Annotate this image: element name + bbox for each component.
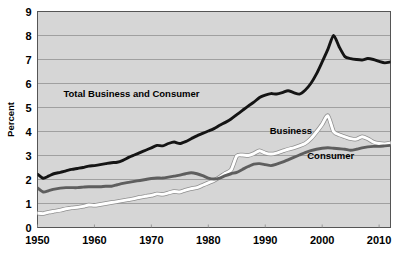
series-annotation-consumer: Consumer <box>307 150 354 161</box>
y-axis-title: Percent <box>5 101 16 137</box>
y-tick-label-2: 2 <box>25 174 31 186</box>
y-tick-label-6: 6 <box>25 78 31 90</box>
x-axis-tick-labels: 1950196019701980199020002010 <box>25 234 391 246</box>
y-axis-title-text: Percent <box>5 101 16 137</box>
y-tick-label-1: 1 <box>25 198 31 210</box>
y-tick-label-8: 8 <box>25 30 31 42</box>
x-tick-label-1990: 1990 <box>253 234 277 246</box>
x-tick-label-2000: 2000 <box>310 234 334 246</box>
series-annotation-business: Business <box>270 125 312 136</box>
y-axis-tick-labels: 0123456789 <box>25 6 32 234</box>
series-annotation-total-business-and-consumer: Total Business and Consumer <box>63 88 199 99</box>
y-tick-label-4: 4 <box>25 126 32 138</box>
y-tick-label-3: 3 <box>25 150 31 162</box>
y-tick-label-0: 0 <box>25 222 31 234</box>
x-tick-label-1960: 1960 <box>82 234 106 246</box>
y-tick-label-5: 5 <box>25 102 31 114</box>
y-tick-label-9: 9 <box>25 6 31 18</box>
y-tick-label-7: 7 <box>25 54 31 66</box>
x-tick-label-1950: 1950 <box>25 234 49 246</box>
line-chart-svg: 0123456789 1950196019701980199020002010 … <box>0 0 412 256</box>
x-tick-label-2010: 2010 <box>367 234 391 246</box>
x-tick-label-1970: 1970 <box>139 234 163 246</box>
chart-container: 0123456789 1950196019701980199020002010 … <box>0 0 412 256</box>
x-tick-label-1980: 1980 <box>196 234 220 246</box>
